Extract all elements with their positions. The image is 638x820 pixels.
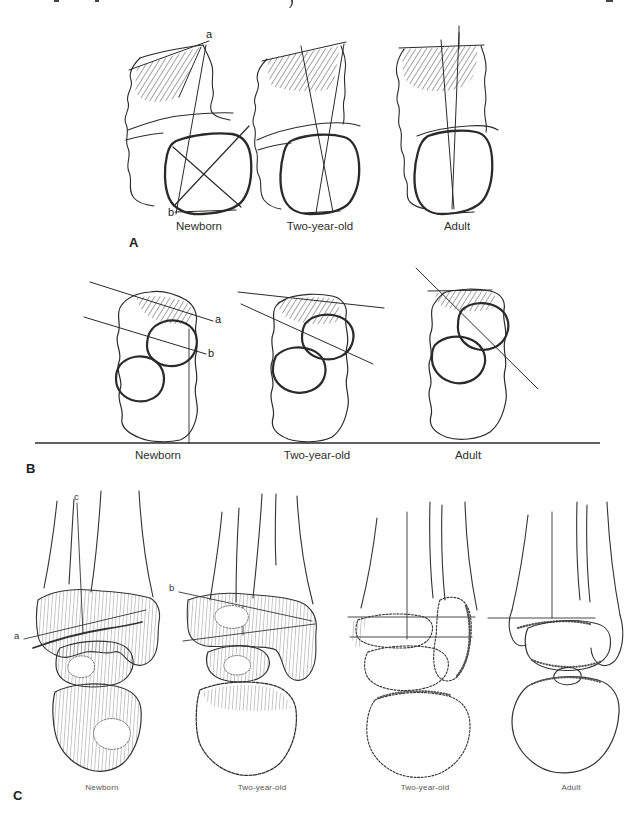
panel-a-drawing-adult: [396, 26, 498, 214]
panel-b-drawing-adult: [416, 268, 538, 439]
panel-label-c: C: [13, 789, 22, 802]
hatched-region: [137, 296, 193, 324]
hatched-region: [135, 47, 200, 102]
fibula-distal-outline: [434, 597, 472, 681]
diagonal-line: [173, 147, 241, 207]
talus-nucleus: [224, 656, 251, 675]
panel-c-drawing-newborn: [24, 491, 160, 771]
line-label-b: b: [208, 348, 214, 359]
caption-two-year-old-1: Two-year-old: [238, 784, 287, 792]
caption-newborn: Newborn: [85, 784, 118, 792]
calcaneus-outline: [432, 337, 485, 384]
caption-two-year-old: Two-year-old: [287, 221, 353, 233]
calcaneus-hatched-band: [203, 685, 291, 711]
calcaneus-ossification-center: [116, 356, 164, 401]
line-label-a: a: [14, 631, 19, 641]
caption-adult: Adult: [444, 221, 470, 233]
caption-two-year-old-2: Two-year-old: [401, 784, 450, 792]
hatched-region: [268, 46, 340, 91]
line-label-b: b: [168, 207, 174, 218]
figure-line-art: [0, 0, 638, 820]
medial-malleolus-hatch: [351, 617, 366, 650]
caption-two-year-old: Two-year-old: [284, 450, 350, 462]
calcaneus-ossification-center: [273, 347, 326, 392]
cropped-text-fragments: [54, 0, 613, 8]
line-label-a: a: [215, 314, 221, 325]
panel-a-drawing-two-year-old: [253, 42, 360, 214]
panel-label-a: A: [129, 236, 138, 249]
calcaneus-outline: [512, 677, 619, 773]
line-label-b: b: [169, 583, 174, 593]
panel-b-drawing-newborn: [84, 282, 213, 443]
talus-lower-stipple: [532, 660, 602, 667]
panel-c-drawing-two-year-old-2: [348, 502, 477, 777]
panel-a-drawing-newborn: [125, 41, 251, 214]
line-label-a: a: [206, 29, 212, 40]
scanned-figure-page: a b Newborn Two-year-old Adult A a b New…: [0, 0, 638, 820]
caption-newborn: Newborn: [176, 221, 222, 233]
lateral-malleolus: [591, 615, 623, 666]
panel-b-drawing-two-year-old: [238, 292, 384, 442]
line-label-c: c: [74, 492, 79, 502]
hatched-region: [403, 46, 478, 91]
caption-adult: Adult: [561, 784, 580, 792]
caption-newborn: Newborn: [135, 450, 181, 462]
fibula-hatched-edge: [457, 606, 470, 676]
top-reference-line: [428, 290, 492, 291]
panel-label-b: B: [26, 462, 35, 475]
talus-outline: [365, 646, 449, 691]
tibia-epiphysis-outline: [356, 614, 433, 648]
tibial-plafond-stipple: [518, 621, 590, 628]
panel-c-drawing-adult: [488, 502, 623, 773]
ossification-center-outline: [280, 135, 359, 214]
panel-c-drawing-two-year-old-1: [179, 494, 316, 775]
calcaneus-outline: [367, 693, 470, 778]
calcaneus-nucleus: [94, 719, 131, 750]
caption-adult: Adult: [455, 450, 481, 462]
axis-line: [416, 268, 538, 389]
